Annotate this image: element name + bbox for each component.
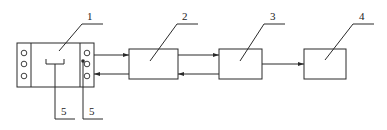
terminal-icon bbox=[21, 61, 27, 67]
component-4-box bbox=[304, 49, 346, 79]
component-2-box bbox=[129, 49, 178, 79]
terminal-icon bbox=[84, 61, 90, 67]
block-diagram: 1 2 3 4 5 5 bbox=[0, 0, 387, 130]
label-4: 4 bbox=[359, 10, 365, 22]
label-1: 1 bbox=[87, 10, 93, 22]
label-5a: 5 bbox=[61, 105, 67, 117]
component-3-box bbox=[219, 49, 262, 79]
terminal-icon bbox=[84, 50, 90, 56]
label-3: 3 bbox=[270, 10, 276, 22]
terminal-icon bbox=[21, 50, 27, 56]
label-5b: 5 bbox=[89, 105, 95, 117]
label-2: 2 bbox=[182, 10, 188, 22]
terminal-icon bbox=[21, 73, 27, 79]
terminal-icon bbox=[84, 73, 90, 79]
